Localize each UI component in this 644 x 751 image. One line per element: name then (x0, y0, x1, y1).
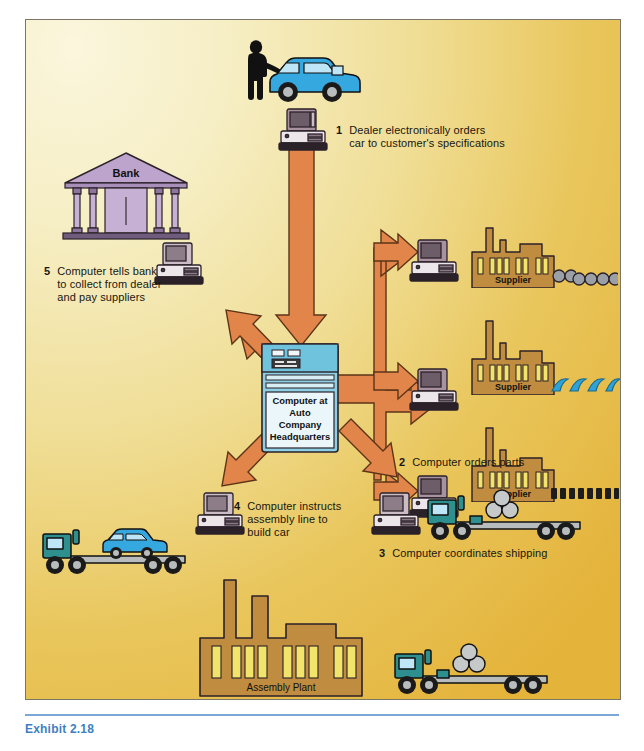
step-5-line-2: to collect from dealer (57, 278, 161, 290)
step-4-number: 4 (234, 500, 240, 512)
arrow-dealer-to-hq (276, 148, 326, 346)
hq-line-1: Computer at (272, 395, 327, 406)
step-1-line-1: Dealer electronically orders (349, 124, 485, 136)
supplier-2-label: Supplier (495, 382, 532, 392)
exhibit-caption: Exhibit 2.18 (25, 722, 94, 736)
step-1-label: 1 Dealer electronically orders car to cu… (336, 124, 546, 150)
dealer-computer-icon (278, 108, 330, 154)
step-3-label: 3Computer coordinates shipping (379, 547, 599, 560)
supply-chain-diagram: .ar{fill:#e2854b;stroke:#5c3418;stroke-w… (25, 19, 621, 700)
truck-with-parts-bottom (391, 640, 551, 696)
car-blue (270, 58, 360, 102)
hq-mainframe: Computer at Auto Company Headquarters (260, 342, 340, 454)
step-1-line-2: car to customer's specifications (349, 137, 505, 149)
step-2-number: 2 (399, 456, 405, 468)
shipping-computer-icon (371, 492, 423, 538)
bank-building: Bank (61, 151, 191, 243)
step-2-line-1: Computer orders parts (412, 456, 524, 469)
bank-label: Bank (113, 167, 141, 179)
supplier-1-label: Supplier (495, 275, 532, 285)
step-4-line-2: assembly line to (247, 513, 327, 525)
step-3-number: 3 (379, 547, 385, 559)
supplier-2-computer-icon (409, 368, 461, 414)
truck-with-finished-car (29, 520, 189, 576)
car-on-truck (103, 529, 167, 559)
step-4-line-1: Computer instructs (247, 500, 341, 512)
hq-line-2: Auto (289, 407, 311, 418)
supplier-2-product-hoods (550, 371, 620, 397)
truck-with-parts (424, 486, 584, 542)
supplier-1-computer-icon (409, 239, 461, 285)
arrow-hq-to-shipping (339, 419, 397, 477)
supplier-1-factory: Supplier (456, 226, 576, 288)
assembly-plant: Assembly Plant (176, 576, 386, 699)
dealer-customer-with-car (224, 36, 364, 106)
assembly-plant-label: Assembly Plant (247, 682, 316, 693)
step-2-label: 2Computer orders parts (399, 456, 599, 469)
caption-rule (25, 714, 619, 716)
hq-line-3: Company (279, 419, 323, 430)
hq-line-4: Headquarters (270, 431, 330, 442)
step-5-number: 5 (44, 265, 50, 277)
step-4-label: 4 Computer instructs assembly line to bu… (234, 500, 384, 539)
step-5-line-1: Computer tells bank (57, 265, 157, 277)
supplier-1-wheels-extra (572, 268, 618, 290)
exhibit-page: .ar{fill:#e2854b;stroke:#5c3418;stroke-w… (0, 0, 644, 751)
step-4-line-3: build car (247, 526, 289, 538)
step-3-line-1: Computer coordinates shipping (392, 547, 547, 560)
step-5-label: 5 Computer tells bank to collect from de… (44, 265, 184, 304)
step-1-number: 1 (336, 124, 342, 136)
step-5-line-3: and pay suppliers (57, 291, 145, 303)
